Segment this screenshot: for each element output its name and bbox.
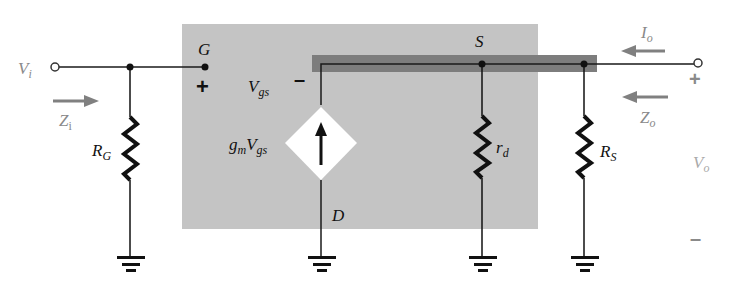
source-label: S: [475, 32, 484, 51]
zo-label: Zo: [640, 108, 655, 130]
gate-label: G: [198, 40, 210, 59]
io-label: Io: [640, 23, 653, 45]
zi-arrow-icon: [53, 95, 99, 107]
vi-label: Vi: [18, 59, 32, 81]
gate-node: [202, 64, 209, 71]
rs-label: RS: [599, 142, 616, 164]
output-plus-sign: +: [689, 68, 701, 90]
ground-icon: [469, 256, 497, 272]
io-arrow-icon: [621, 45, 665, 57]
gate-plus-sign: +: [196, 74, 209, 99]
vgs-minus-sign: –: [294, 68, 305, 90]
ground-icon: [571, 256, 599, 272]
ground-icon: [117, 256, 145, 272]
input-terminal: [51, 63, 59, 71]
output-terminal: [694, 59, 702, 67]
rs-resistor: [578, 64, 591, 257]
fet-equivalent-circuit: Vi Zi G + – Vgs gmVgs D S RG rd RS Io + …: [0, 0, 729, 287]
output-minus-sign: –: [690, 227, 701, 249]
zi-label: Zi: [59, 111, 72, 133]
zo-arrow-icon: [622, 91, 668, 103]
drain-label: D: [331, 206, 345, 225]
rg-label: RG: [91, 141, 111, 163]
vo-label: Vo: [693, 153, 709, 175]
rg-resistor: [124, 67, 137, 257]
ground-icon: [308, 256, 336, 272]
